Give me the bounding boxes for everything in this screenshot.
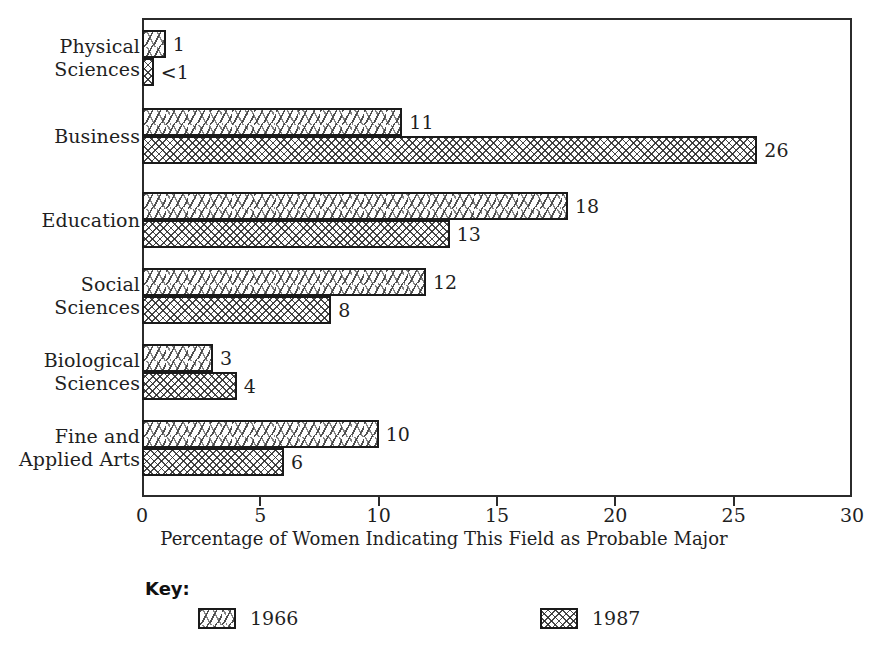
bar-value-label: 11: [409, 108, 433, 136]
bar-1987-2: [142, 220, 450, 248]
x-axis-tick-label: 30: [840, 504, 864, 526]
x-axis-title: Percentage of Women Indicating This Fiel…: [0, 528, 888, 549]
x-axis-tick-label: 0: [136, 504, 148, 526]
x-axis-tick-label: 20: [603, 504, 627, 526]
bar-1966-4: [142, 344, 213, 372]
bar-value-label: 4: [244, 372, 256, 400]
bar-1966-1: [142, 108, 402, 136]
bar-value-label: 1: [173, 30, 185, 58]
legend-label-1966: 1966: [250, 608, 298, 629]
bar-1987-1: [142, 136, 757, 164]
bar-1966-5: [142, 420, 379, 448]
bar-chart: Physical Sciences1<1Business1126Educatio…: [0, 0, 888, 645]
category-label: Social Sciences: [54, 273, 140, 319]
bar-value-label: 3: [220, 344, 232, 372]
x-axis-tick-label: 5: [254, 504, 266, 526]
legend-item-1987: 1987: [540, 608, 640, 629]
bar-value-label: 18: [575, 192, 599, 220]
bar-1966-2: [142, 192, 568, 220]
bar-1966-3: [142, 268, 426, 296]
x-axis-tick-label: 10: [367, 504, 391, 526]
bar-value-label: 10: [386, 420, 410, 448]
legend-swatch-1987-icon: [540, 608, 578, 629]
bar-1987-3: [142, 296, 331, 324]
bar-value-label: 8: [338, 296, 350, 324]
bar-1966-0: [142, 30, 166, 58]
bar-value-label: 26: [764, 136, 788, 164]
bar-1987-4: [142, 372, 237, 400]
x-axis-tick-label: 25: [722, 504, 746, 526]
category-label: Business: [54, 125, 140, 148]
legend-title: Key:: [145, 578, 190, 599]
bar-value-label: <1: [161, 58, 189, 86]
legend-label-1987: 1987: [592, 608, 640, 629]
legend-item-1966: 1966: [198, 608, 298, 629]
category-label: Fine and Applied Arts: [19, 425, 140, 471]
category-label: Physical Sciences: [54, 35, 140, 81]
bar-1987-5: [142, 448, 284, 476]
category-label: Education: [41, 209, 140, 232]
bar-1987-0: [142, 58, 154, 86]
category-label: Biological Sciences: [44, 349, 140, 395]
bar-value-label: 13: [457, 220, 481, 248]
x-axis-tick-label: 15: [485, 504, 509, 526]
bar-value-label: 6: [291, 448, 303, 476]
bar-value-label: 12: [433, 268, 457, 296]
legend-swatch-1966-icon: [198, 608, 236, 629]
